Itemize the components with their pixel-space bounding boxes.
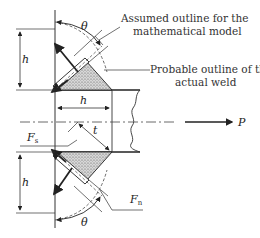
t-label: t: [93, 124, 98, 137]
fs-label: Fs: [26, 131, 39, 145]
fn-label: Fn: [129, 193, 143, 207]
top-h-label: h: [22, 53, 29, 66]
mid-h-label: h: [80, 94, 87, 107]
load-label: P: [237, 116, 246, 129]
top-ext-2: [89, 46, 108, 62]
top-force-arrow: [55, 44, 78, 72]
probable-label-line1: Probable outline of the: [150, 63, 260, 75]
theta-bottom-arc: [57, 197, 100, 220]
fn-leader-diag: [100, 190, 112, 210]
theta-top-label: θ: [81, 20, 88, 33]
t-ext: [68, 122, 78, 132]
assumed-label-line1: Assumed outline for the: [120, 12, 248, 24]
probable-label-line2: actual weld: [175, 76, 237, 88]
assumed-label-line2: mathematical model: [133, 25, 242, 37]
theta-top-arc: [57, 22, 100, 45]
fs-leader-end: [68, 140, 77, 146]
theta-bottom-label: θ: [81, 216, 88, 229]
assumed-leader: [99, 27, 120, 40]
top-ext-1: [74, 30, 102, 56]
bottom-h-label: h: [22, 176, 29, 189]
bottom-ext-2: [89, 180, 108, 196]
break-line: [131, 90, 140, 152]
bottom-ext-1: [74, 186, 102, 212]
weld-diagram: P θ Assumed outline for the mathematical…: [0, 0, 260, 238]
bottom-force-arrow: [54, 168, 72, 194]
